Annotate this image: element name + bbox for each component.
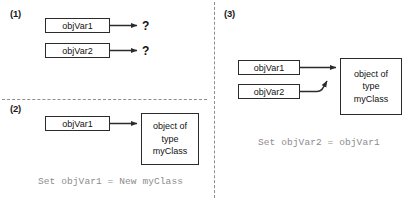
object-box-line2: type	[362, 80, 379, 93]
var-box-objvar1-panel2: objVar1	[45, 116, 110, 131]
object-box-line1: object of	[354, 68, 388, 81]
divider-horizontal	[2, 99, 207, 100]
object-box-line1: object of	[153, 120, 187, 133]
question-mark-2: ?	[142, 44, 149, 58]
var-box-objvar1-panel3: objVar1	[238, 60, 300, 75]
object-box-line3: myClass	[354, 93, 389, 106]
object-reference-diagram: (1) objVar1 objVar2 ? ? (2) objVar1 obje…	[0, 0, 412, 200]
divider-vertical	[214, 2, 215, 198]
panel-label-2: (2)	[10, 103, 21, 114]
var-box-objvar2-panel3: objVar2	[238, 84, 300, 99]
caption-panel2: Set objVar1 = New myClass	[38, 176, 183, 187]
panel-label-3: (3)	[224, 8, 235, 19]
object-box-panel2: object of type myClass	[141, 113, 199, 165]
object-box-line3: myClass	[153, 145, 188, 158]
caption-panel3: Set objVar2 = objVar1	[258, 137, 380, 148]
var-box-objvar1-panel1: objVar1	[45, 18, 110, 33]
var-box-objvar2-panel1: objVar2	[45, 43, 110, 58]
panel-label-1: (1)	[10, 8, 21, 19]
arrow-objvar2-to-object-panel3	[300, 81, 327, 92]
object-box-panel3: object of type myClass	[340, 58, 402, 115]
object-box-line2: type	[161, 133, 178, 146]
question-mark-1: ?	[142, 19, 149, 33]
